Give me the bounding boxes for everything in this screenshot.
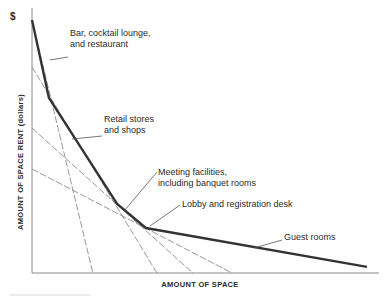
y-unit-symbol: $ bbox=[10, 11, 16, 22]
annotation-text: Bar, cocktail lounge, bbox=[70, 28, 151, 38]
bid-rent-chart: $ AMOUNT OF SPACE RENT (dollars) AMOUNT … bbox=[0, 0, 386, 298]
annotation-leader-line bbox=[150, 205, 180, 226]
series-line-meeting-facilities-including-banquet-rooms bbox=[32, 128, 193, 273]
x-axis-title: AMOUNT OF SPACE bbox=[161, 280, 238, 289]
annotation-text: including banquet rooms bbox=[158, 178, 257, 188]
annotation-guest-rooms: Guest rooms bbox=[254, 232, 336, 248]
annotation-lobby-and-registration-desk: Lobby and registration desk bbox=[150, 199, 293, 226]
y-axis-title: AMOUNT OF SPACE RENT (dollars) bbox=[16, 94, 25, 230]
annotation-text: and shops bbox=[104, 125, 146, 135]
annotation-text: and restaurant bbox=[70, 39, 129, 49]
annotation-leader-line bbox=[254, 240, 282, 248]
annotation-leader-line bbox=[72, 136, 102, 139]
annotation-retail-stores-and-shops: Retail storesand shops bbox=[72, 114, 155, 139]
annotation-bar-cocktail-lounge-and-restaurant: Bar, cocktail lounge,and restaurant bbox=[50, 28, 151, 60]
annotation-leader-line bbox=[50, 57, 68, 60]
annotation-text: Meeting facilities, bbox=[158, 167, 227, 177]
annotation-text: Lobby and registration desk bbox=[182, 199, 293, 209]
series-line-envelope bbox=[32, 20, 367, 267]
annotation-text: Guest rooms bbox=[284, 232, 336, 242]
annotation-text: Retail stores bbox=[104, 114, 155, 124]
annotation-leader-line bbox=[124, 172, 157, 211]
